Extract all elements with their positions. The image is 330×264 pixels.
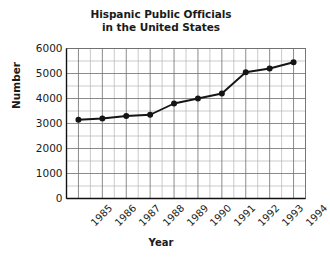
data-point xyxy=(291,59,297,65)
data-point xyxy=(123,113,129,119)
data-point xyxy=(267,66,273,72)
data-point xyxy=(219,91,225,97)
data-point xyxy=(195,96,201,102)
x-axis-label: Year xyxy=(0,237,322,248)
data-point xyxy=(75,117,81,123)
data-point xyxy=(99,116,105,122)
data-point xyxy=(147,112,153,118)
data-point xyxy=(171,101,177,107)
data-point xyxy=(243,69,249,75)
